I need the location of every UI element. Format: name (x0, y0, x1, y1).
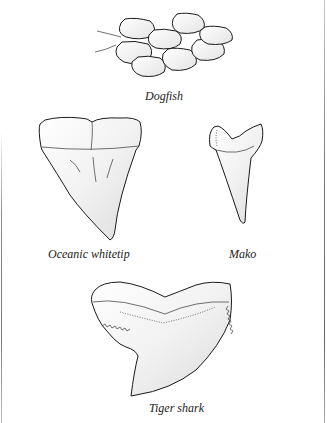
label-tiger-shark: Tiger shark (149, 401, 204, 416)
tiger-shark-tooth-illustration (0, 0, 327, 400)
